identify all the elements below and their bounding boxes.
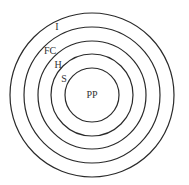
ring-label-s: S xyxy=(61,73,67,84)
concentric-circles-diagram: PPSHFCI xyxy=(0,0,189,185)
ring-label-i: I xyxy=(55,21,58,32)
ring-label-fc: FC xyxy=(44,45,57,56)
ring-label-pp: PP xyxy=(86,89,98,100)
ring-label-h: H xyxy=(54,59,61,70)
